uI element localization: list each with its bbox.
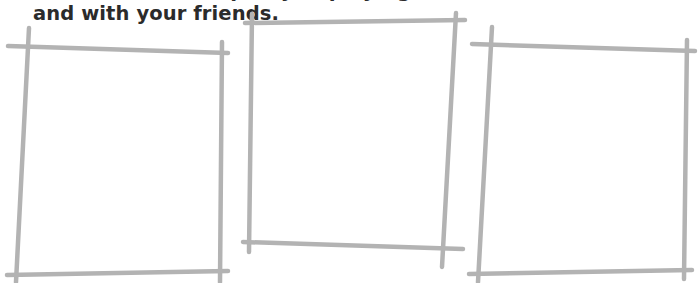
panel-3-top-edge bbox=[472, 44, 695, 51]
panel-1-right-edge bbox=[220, 42, 222, 282]
panel-2-left-edge bbox=[249, 14, 252, 252]
comic-panel-2[interactable] bbox=[243, 13, 465, 267]
comic-panel-3[interactable] bbox=[469, 27, 695, 282]
panel-3-left-edge bbox=[478, 27, 492, 282]
comic-panels bbox=[0, 0, 698, 283]
panel-3-bottom-edge bbox=[469, 270, 692, 274]
panel-1-left-edge bbox=[16, 28, 29, 282]
panel-2-top-edge bbox=[245, 20, 465, 23]
panel-2-right-edge bbox=[442, 13, 456, 267]
panel-3-right-edge bbox=[684, 40, 687, 279]
panel-1-top-edge bbox=[8, 46, 228, 53]
comic-panel-1[interactable] bbox=[7, 28, 228, 282]
panel-1-bottom-edge bbox=[7, 271, 228, 275]
panel-2-bottom-edge bbox=[243, 242, 463, 249]
